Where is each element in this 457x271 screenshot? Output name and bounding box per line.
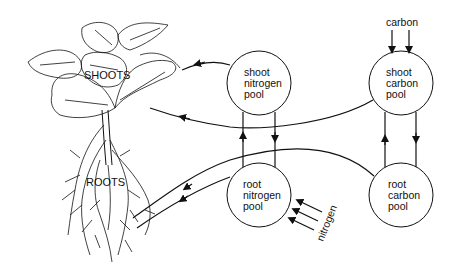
plant-nutrient-pool-diagram: SHOOTS ROOTS shoot nitrogen pool shoot c… — [0, 0, 457, 271]
shoots-label: SHOOTS — [84, 69, 130, 81]
roots-label: ROOTS — [86, 176, 125, 188]
arrow-shoot-n-to-shoots — [182, 62, 230, 70]
nitrogen-input-arrow-2 — [295, 210, 318, 221]
svg-text:pool: pool — [386, 88, 406, 100]
svg-text:pool: pool — [244, 88, 264, 100]
arrow-root-n-to-roots — [137, 177, 230, 228]
nitrogen-input-label: nitrogen — [314, 203, 339, 243]
svg-text:pool: pool — [388, 200, 408, 212]
nitrogen-input-arrow-3 — [291, 219, 314, 230]
carbon-input-label: carbon — [386, 16, 418, 28]
svg-text:pool: pool — [243, 200, 263, 212]
plant-illustration — [28, 22, 180, 262]
nitrogen-input-arrow-1 — [299, 201, 322, 212]
